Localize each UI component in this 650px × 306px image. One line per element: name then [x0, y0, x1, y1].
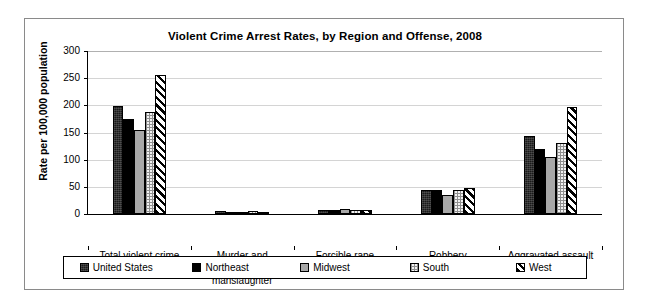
bar-united-states[interactable]	[524, 136, 535, 214]
legend-item-south[interactable]: South	[377, 262, 481, 273]
legend-item-label: United States	[93, 262, 153, 273]
bar-northeast[interactable]	[329, 210, 340, 214]
bar-group-bars	[421, 51, 474, 214]
bar-northeast[interactable]	[535, 149, 546, 214]
chart-frame: Violent Crime Arrest Rates, by Region an…	[24, 18, 624, 290]
legend-swatch-icon	[300, 263, 309, 272]
legend-swatch-icon	[516, 263, 525, 272]
bar-group-bars	[318, 51, 371, 214]
y-axis-tick-mark	[84, 187, 88, 188]
bar-south[interactable]	[453, 190, 464, 214]
bar-united-states[interactable]	[421, 190, 432, 214]
legend-item-west[interactable]: West	[482, 262, 586, 273]
bar-united-states[interactable]	[215, 211, 226, 214]
legend-item-label: Midwest	[313, 262, 350, 273]
legend-swatch-icon	[410, 263, 419, 272]
y-axis-tick-mark	[84, 105, 88, 106]
y-axis-tick-label: 50	[50, 182, 80, 192]
bar-west[interactable]	[155, 75, 166, 214]
legend-item-united-states[interactable]: United States	[64, 262, 168, 273]
bar-south[interactable]	[248, 211, 259, 214]
bar-west[interactable]	[567, 107, 578, 214]
bar-midwest[interactable]	[237, 212, 248, 214]
y-axis-tick-mark	[84, 214, 88, 215]
y-axis-tick-mark	[84, 78, 88, 79]
y-axis-tick-mark	[84, 133, 88, 134]
bar-south[interactable]	[350, 210, 361, 214]
y-axis-tick-label: 0	[50, 209, 80, 219]
bar-west[interactable]	[361, 210, 372, 214]
y-axis-tick-label: 100	[50, 155, 80, 165]
y-axis-tick-label: 200	[50, 100, 80, 110]
bar-midwest[interactable]	[442, 195, 453, 214]
y-axis-title: Rate per 100,000 population	[37, 31, 49, 191]
bar-group	[113, 51, 166, 214]
bar-united-states[interactable]	[318, 210, 329, 214]
bar-midwest[interactable]	[340, 209, 351, 214]
legend-item-label: Northeast	[205, 262, 248, 273]
bar-group	[215, 51, 268, 214]
y-axis-tick-mark	[84, 51, 88, 52]
bar-midwest[interactable]	[134, 130, 145, 214]
bar-midwest[interactable]	[545, 157, 556, 214]
bar-group	[421, 51, 474, 214]
bar-south[interactable]	[556, 143, 567, 214]
legend-item-label: West	[529, 262, 552, 273]
bar-united-states[interactable]	[113, 106, 124, 214]
bar-northeast[interactable]	[123, 119, 134, 214]
bar-south[interactable]	[145, 112, 156, 214]
y-axis-tick-mark	[84, 160, 88, 161]
bar-group-bars	[215, 51, 268, 214]
bar-group-bars	[524, 51, 577, 214]
legend-item-northeast[interactable]: Northeast	[168, 262, 272, 273]
bar-west[interactable]	[464, 188, 475, 214]
bar-northeast[interactable]	[226, 212, 237, 214]
plot-area: 050100150200250300Total violent crimeMur…	[87, 51, 602, 215]
y-axis-tick-label: 150	[50, 128, 80, 138]
y-axis-tick-label: 300	[50, 46, 80, 56]
bar-northeast[interactable]	[432, 190, 443, 214]
bar-west[interactable]	[258, 212, 269, 214]
chart-title: Violent Crime Arrest Rates, by Region an…	[25, 30, 625, 42]
bar-group	[524, 51, 577, 214]
bar-group-bars	[113, 51, 166, 214]
legend-item-midwest[interactable]: Midwest	[273, 262, 377, 273]
legend-swatch-icon	[192, 263, 201, 272]
legend-item-label: South	[423, 262, 449, 273]
bar-group	[318, 51, 371, 214]
legend-swatch-icon	[80, 263, 89, 272]
y-axis-tick-label: 250	[50, 73, 80, 83]
chart-legend: United StatesNortheastMidwestSouthWest	[63, 256, 587, 279]
